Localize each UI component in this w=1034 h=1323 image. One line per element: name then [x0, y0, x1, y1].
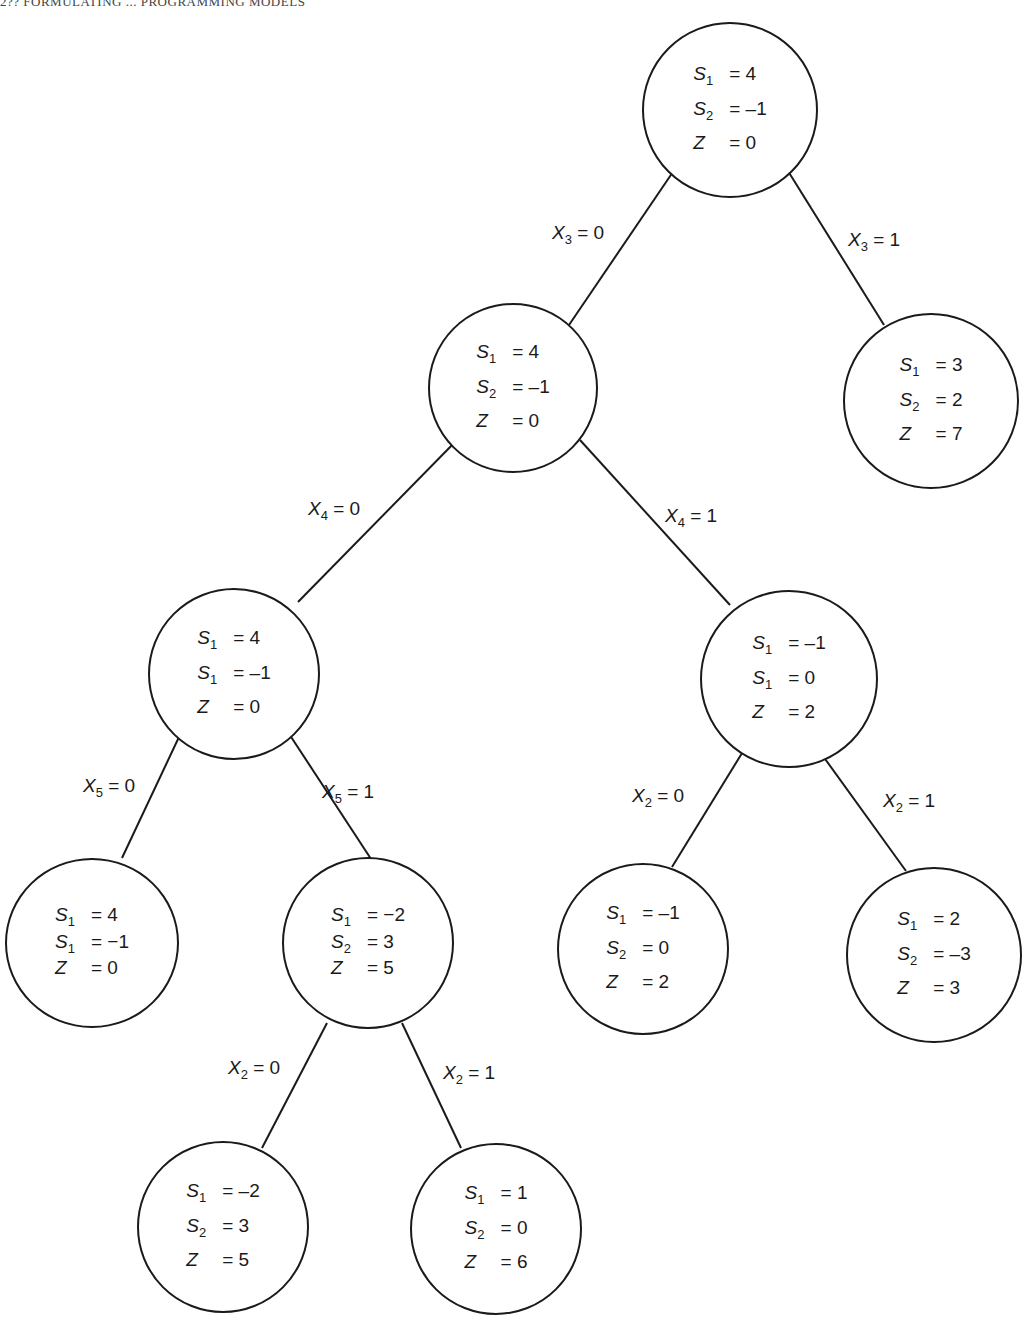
edge-label-x3-0: X3 = 0 — [552, 222, 604, 247]
node-x5-0: S1= 4 S1= −1 Z= 0 — [5, 858, 179, 1028]
node-x3-1: S1= 3 S2= 2 Z= 7 — [843, 313, 1019, 489]
node-x5-1: S1= −2 S2= 3 Z= 5 — [282, 857, 454, 1029]
edge-label-x5-0: X5 = 0 — [83, 775, 135, 800]
edge-label-x3-1: X3 = 1 — [848, 229, 900, 254]
node-x5-1-x2-1: S1= 1 S2= 0 Z= 6 — [410, 1143, 582, 1315]
edge-label-x2-0-left: X2 = 0 — [228, 1057, 280, 1082]
edge-label-x5-1: X5 = 1 — [322, 781, 374, 806]
node-x3-0: S1= 4 S2= –1 Z= 0 — [428, 303, 598, 473]
edge-label-x4-0: X4 = 0 — [308, 498, 360, 523]
edge-label-x2-0-right: X2 = 0 — [632, 785, 684, 810]
node-var: S2 — [693, 98, 723, 123]
node-x4-1-x2-1: S1= 2 S2= –3 Z= 3 — [846, 867, 1022, 1043]
edge-label-x4-1: X4 = 1 — [665, 505, 717, 530]
node-root: S1= 4 S2= –1 Z= 0 — [642, 22, 818, 198]
node-x5-1-x2-0: S1= –2 S2= 3 Z= 5 — [137, 1141, 309, 1313]
node-x4-1-x2-0: S1= –1 S2= 0 Z= 2 — [557, 863, 729, 1035]
edge-label-x2-1-left: X2 = 1 — [443, 1062, 495, 1087]
node-var: Z — [693, 132, 723, 157]
node-x4-0: S1= 4 S1= –1 Z= 0 — [148, 588, 320, 760]
edge-label-x2-1-right: X2 = 1 — [883, 790, 935, 815]
edge-x5-1-x2-0 — [262, 1023, 327, 1148]
node-var: S1 — [693, 63, 723, 88]
node-x4-1: S1= –1 S1= 0 Z= 2 — [700, 590, 878, 768]
